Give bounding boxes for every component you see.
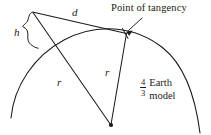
tangency-arrowhead-icon <box>127 31 133 36</box>
label-distance-d: d <box>72 7 78 18</box>
earth-center-point <box>109 123 113 127</box>
earth-model-word-earth: Earth <box>149 77 175 90</box>
radius-line-right <box>111 34 127 125</box>
tangency-leader-line <box>129 18 143 31</box>
label-radius-right-r: r <box>105 67 109 78</box>
fraction-numerator: 4 <box>140 78 146 87</box>
fraction-denominator: 3 <box>140 89 146 98</box>
fraction-four-thirds: 4 3 <box>140 77 146 98</box>
radio-horizon-figure: d h r r Point of tangency 4 3 Earth mode… <box>0 0 211 135</box>
label-radius-left-r: r <box>57 77 61 88</box>
height-brace-icon <box>23 13 39 49</box>
tangent-line-d <box>33 12 127 34</box>
label-earth-model: 4 3 Earth model <box>140 77 176 103</box>
label-point-of-tangency: Point of tangency <box>111 3 187 14</box>
label-height-h: h <box>14 27 20 38</box>
earth-model-words: Earth model <box>149 77 175 103</box>
earth-model-word-model: model <box>149 90 175 103</box>
